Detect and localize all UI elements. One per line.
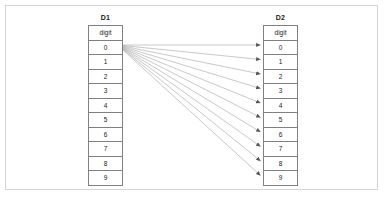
arrow-to-6 [123, 48, 261, 132]
arrow-to-9 [123, 50, 261, 176]
table-d1-grid: digit 0 1 2 3 4 5 6 7 8 9 [88, 25, 123, 186]
table-row: 1 [89, 55, 122, 70]
table-row: 3 [89, 84, 122, 99]
table-row: 6 [264, 128, 297, 143]
table-row: 4 [89, 99, 122, 114]
table-row: 9 [89, 171, 122, 186]
arrow-to-7 [123, 49, 261, 147]
table-row: 6 [89, 128, 122, 143]
table-d2: D2 digit 0 1 2 3 4 5 6 7 8 9 [263, 13, 298, 186]
table-row: 8 [89, 157, 122, 172]
arrow-to-5 [123, 48, 261, 118]
diagram-canvas: D1 digit 0 1 2 3 4 5 6 7 8 9 D2 digit 0 … [0, 0, 385, 199]
table-d1: D1 digit 0 1 2 3 4 5 6 7 8 9 [88, 13, 123, 186]
table-d2-title: D2 [263, 13, 298, 22]
table-row: 2 [89, 70, 122, 85]
table-row: 7 [264, 142, 297, 157]
table-row: 9 [264, 171, 297, 186]
arrow-to-2 [123, 46, 261, 74]
table-row: 5 [264, 113, 297, 128]
table-row: 5 [89, 113, 122, 128]
table-row: 4 [264, 99, 297, 114]
table-d2-header-cell: digit [264, 26, 297, 41]
table-d1-title: D1 [88, 13, 123, 22]
table-row: 0 [264, 41, 297, 56]
table-d1-header-cell: digit [89, 26, 122, 41]
arrow-to-4 [123, 47, 261, 103]
arrow-to-8 [123, 49, 261, 161]
table-row: 8 [264, 157, 297, 172]
table-row: 2 [264, 70, 297, 85]
table-row: 1 [264, 55, 297, 70]
mapping-arrows [0, 0, 385, 199]
table-row: 7 [89, 142, 122, 157]
table-row: 3 [264, 84, 297, 99]
table-row: 0 [89, 41, 122, 56]
arrow-to-1 [123, 46, 261, 60]
table-d2-grid: digit 0 1 2 3 4 5 6 7 8 9 [263, 25, 298, 186]
